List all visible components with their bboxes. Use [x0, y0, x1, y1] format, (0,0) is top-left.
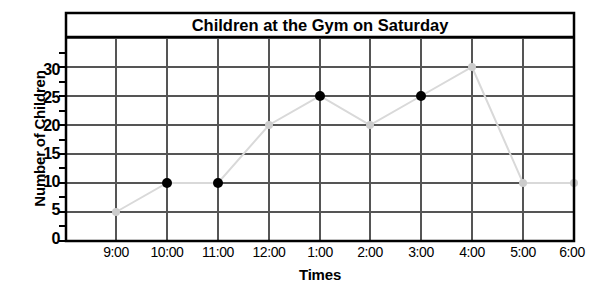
- data-point-3-00: [416, 91, 426, 101]
- data-point-10-00: [162, 178, 172, 188]
- x-axis-title: Times: [66, 266, 574, 283]
- data-point-5-00: [519, 179, 527, 187]
- data-line: [116, 67, 574, 212]
- vertical-gridlines: [66, 38, 574, 241]
- x-axis-tick-labels: 9:00 10:00 11:00 12:00 1:00 2:00 3:00 4:…: [0, 245, 599, 265]
- data-point-4-00: [468, 63, 476, 71]
- line-chart: Number of Children 30 25 20 15 10 5 0: [0, 0, 599, 289]
- x-tick-label-6-00: 6:00: [542, 245, 599, 259]
- data-point-1-00: [315, 91, 325, 101]
- data-point-12-00: [265, 121, 273, 129]
- data-point-markers: [112, 63, 578, 216]
- data-point-11-00: [213, 178, 223, 188]
- chart-title: Children at the Gym on Saturday: [192, 16, 450, 34]
- data-point-9-00: [112, 208, 120, 216]
- data-point-2-00: [366, 121, 374, 129]
